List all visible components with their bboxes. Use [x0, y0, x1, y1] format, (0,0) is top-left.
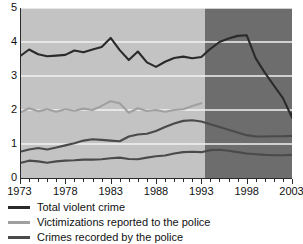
x-tick-label: 1983 [98, 185, 122, 197]
x-tick [174, 179, 175, 182]
x-tick [147, 179, 148, 182]
series-lines [20, 8, 292, 178]
x-tick [93, 179, 94, 182]
x-tick-label: 1973 [7, 185, 31, 197]
y-tick-label: 2 [1, 104, 17, 115]
legend-label-victimizations-reported: Victimizations reported to the police [37, 216, 210, 228]
legend-swatch-crimes-recorded [8, 236, 30, 239]
y-tick-label: 3 [1, 70, 17, 81]
x-tick [283, 179, 284, 182]
x-tick [129, 179, 130, 182]
x-tick-label: 1998 [234, 185, 258, 197]
x-tick [201, 179, 202, 184]
y-tick-label: 0 [1, 172, 17, 183]
x-tick [274, 179, 275, 182]
x-tick [219, 179, 220, 182]
x-tick [20, 179, 21, 184]
x-tick-label: 2003 [279, 185, 303, 197]
legend-label-total-violent-crime: Total violent crime [37, 201, 125, 213]
x-tick [247, 179, 248, 184]
plot-area [20, 8, 292, 178]
x-tick [265, 179, 266, 182]
x-tick-label: 1978 [53, 185, 77, 197]
x-tick [102, 179, 103, 182]
y-axis-tick-labels: 012345 [0, 0, 17, 190]
x-tick [65, 179, 66, 184]
x-tick [156, 179, 157, 184]
x-tick [183, 179, 184, 182]
x-tick [47, 179, 48, 182]
x-tick [83, 179, 84, 182]
x-tick [165, 179, 166, 182]
legend-item-crimes-recorded: Crimes recorded by the police [8, 230, 298, 244]
x-tick [192, 179, 193, 182]
legend-label-crimes-recorded: Crimes recorded by the police [37, 231, 183, 243]
x-tick [292, 179, 293, 184]
x-tick [56, 179, 57, 182]
x-tick [74, 179, 75, 182]
y-axis-line [20, 8, 21, 179]
y-tick-label: 4 [1, 36, 17, 47]
legend-swatch-total-violent-crime [8, 206, 30, 209]
x-tick [111, 179, 112, 184]
y-tick-label: 1 [1, 138, 17, 149]
legend-item-total-violent-crime: Total violent crime [8, 200, 298, 214]
chart-legend: Total violent crime Victimizations repor… [8, 200, 298, 244]
x-tick [210, 179, 211, 182]
x-tick-label: 1993 [189, 185, 213, 197]
y-tick-label: 5 [1, 2, 17, 13]
x-tick [38, 179, 39, 182]
x-tick [29, 179, 30, 182]
chart-figure: 012345 1973197819831988199319982003 Tota… [0, 0, 303, 244]
x-tick [138, 179, 139, 182]
x-tick [229, 179, 230, 182]
legend-item-victimizations-reported: Victimizations reported to the police [8, 215, 298, 229]
legend-swatch-victimizations-reported [8, 221, 30, 224]
x-tick-label: 1988 [144, 185, 168, 197]
x-tick [120, 179, 121, 182]
x-tick [238, 179, 239, 182]
x-tick [256, 179, 257, 182]
